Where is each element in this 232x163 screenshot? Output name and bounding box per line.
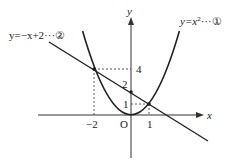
- graph-canvas: y x O −2 1 4 2 1 y=x2···① y=−x+2···②: [0, 0, 232, 163]
- parabola-equation-label: y=x2···①: [179, 15, 222, 27]
- intersection-point: [92, 67, 96, 71]
- tick-y-1: 1: [123, 98, 129, 110]
- origin-label: O: [120, 118, 128, 130]
- tick-x-1: 1: [147, 118, 153, 130]
- line-curve: [49, 42, 208, 141]
- y-axis-label: y: [126, 5, 132, 17]
- tick-y-2: 2: [122, 78, 128, 90]
- tick-y-4: 4: [136, 63, 142, 75]
- y-intercept-point: [129, 90, 133, 94]
- x-axis-label: x: [206, 109, 212, 121]
- line-equation-label: y=−x+2···②: [9, 29, 65, 41]
- intersection-point: [147, 102, 151, 106]
- y-axis-arrow-icon: [128, 17, 134, 25]
- x-axis-arrow-icon: [196, 112, 204, 118]
- tick-x-neg2: −2: [86, 118, 98, 130]
